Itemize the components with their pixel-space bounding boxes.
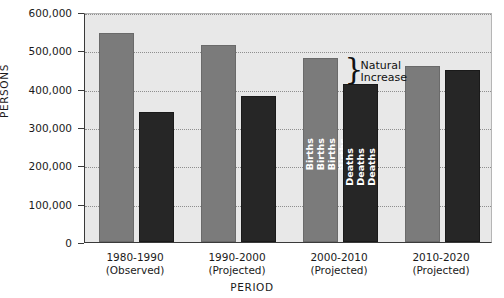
in-bar-label: Births [326, 129, 337, 170]
y-tick-label-text: 0 [65, 238, 72, 249]
in-bar-label: Births [304, 129, 315, 170]
bar-deaths-1980-1990 [139, 112, 174, 242]
x-category-status: (Projected) [381, 264, 501, 277]
plot-area: BirthsBirthsBirthsBirthsBirthsDeathsDeat… [84, 13, 492, 243]
in-bar-label-stack: DeathsDeathsDeaths [344, 85, 377, 241]
bar-births-1980-1990 [99, 33, 134, 242]
gridline [85, 52, 491, 53]
x-axis-title: PERIOD [0, 281, 504, 293]
in-bar-label: Deaths [355, 139, 366, 186]
in-bar-label: Deaths [344, 139, 355, 186]
bar-deaths-2010-2020 [445, 70, 480, 243]
gridline [85, 14, 491, 15]
x-category-label: 2010-2020(Projected) [381, 251, 501, 276]
bar-births-2000-2010: BirthsBirthsBirthsBirthsBirths [303, 58, 338, 242]
bar-births-2010-2020 [405, 66, 440, 242]
in-bar-label: Deaths [366, 139, 377, 186]
y-axis-title: PERSONS [0, 64, 10, 118]
y-tick-label-text: 100,000 [29, 200, 72, 211]
bar-deaths-2000-2010: DeathsDeathsDeaths [343, 84, 378, 242]
y-tick-label-text: 500,000 [29, 46, 72, 57]
bar-chart: 0100,000200,000300,000400,000500,000600,… [0, 0, 504, 298]
annotation-line-2: Increase [361, 72, 408, 85]
y-tick-label-text: 600,000 [29, 8, 72, 19]
in-bar-label-stack: BirthsBirthsBirthsBirthsBirths [304, 59, 337, 241]
in-bar-label: Births [315, 129, 326, 170]
y-tick-mark [78, 243, 84, 244]
x-category-period: 2010-2020 [381, 251, 501, 264]
bar-births-1990-2000 [201, 45, 236, 242]
y-tick-label-text: 200,000 [29, 161, 72, 172]
bar-deaths-1990-2000 [241, 96, 276, 242]
y-tick-label-text: 400,000 [29, 85, 72, 96]
y-tick-label-text: 300,000 [29, 123, 72, 134]
